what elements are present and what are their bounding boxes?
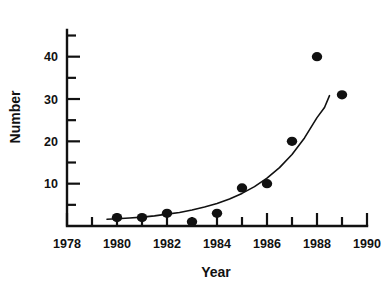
data-point [162,209,172,218]
data-point [187,217,197,226]
y-axis-minor-ticks [67,36,76,205]
x-tick-label: 1988 [303,237,331,251]
y-axis-tick-labels: 10203040 [44,50,58,191]
axis-spines [67,30,367,226]
data-point [212,209,222,218]
y-tick-label: 30 [44,93,58,107]
data-point [237,183,247,192]
y-tick-label: 10 [44,177,58,191]
data-point [112,213,122,222]
x-tick-label: 1982 [153,237,181,251]
y-tick-label: 20 [44,135,58,149]
x-tick-label: 1984 [203,237,231,251]
x-tick-label: 1986 [253,237,281,251]
chart-container: 10203040 1978198019821984198619881990 Nu… [0,0,381,288]
y-tick-label: 40 [44,50,58,64]
y-axis-title: Number [7,90,23,143]
x-tick-label: 1990 [353,237,381,251]
data-point [287,137,297,146]
fitted-exponential-curve [107,96,330,220]
data-point [337,90,347,99]
chart-axes [67,30,367,226]
x-tick-label: 1980 [103,237,131,251]
data-point [262,179,272,188]
x-axis-tick-labels: 1978198019821984198619881990 [53,237,381,251]
data-point [312,52,322,61]
exponential-growth-scatter-chart: 10203040 1978198019821984198619881990 Nu… [0,0,381,288]
data-point-series [112,52,347,226]
data-point [137,213,147,222]
x-tick-label: 1978 [53,237,81,251]
x-axis-title: Year [201,264,231,280]
